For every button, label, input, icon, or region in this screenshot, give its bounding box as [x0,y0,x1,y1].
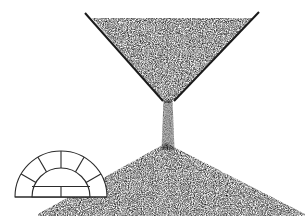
angle-of-repose-figure [0,0,307,222]
figure-root: Angle of repose of a granular pile forme… [0,0,307,222]
